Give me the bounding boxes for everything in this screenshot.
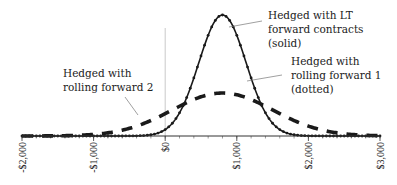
data-point (225, 15, 228, 18)
annotation-rolling-forward-1: Hedged with rolling forward 1 (dotted) (291, 55, 385, 95)
data-point (268, 117, 271, 120)
data-point (257, 96, 260, 99)
data-point (182, 104, 185, 107)
data-point (192, 77, 195, 80)
data-point (167, 125, 170, 128)
data-point (246, 66, 249, 69)
data-point (250, 77, 253, 80)
x-tick-label: -$1,000 (88, 142, 99, 173)
data-point (210, 25, 213, 28)
data-point (235, 34, 238, 37)
data-point (178, 111, 181, 114)
data-point (289, 133, 292, 136)
distribution-chart: -$2,000-$1,000$0$1,000$2,000$3,000 Hedge… (0, 0, 397, 185)
data-point (185, 96, 188, 99)
annotation-lt-forward: Hedged with LT forward contracts (solid) (268, 9, 367, 49)
data-point (286, 132, 289, 135)
data-point (157, 132, 160, 135)
x-tick-label: $3,000 (375, 142, 386, 170)
data-point (153, 133, 156, 136)
data-point (228, 19, 231, 22)
x-tick-label: $1,000 (231, 142, 242, 170)
data-point (239, 44, 242, 47)
data-point (160, 130, 163, 133)
data-point (203, 44, 206, 47)
data-point (271, 122, 274, 125)
data-point (214, 19, 217, 22)
annotation-line: (dotted) (291, 83, 334, 95)
x-tick-label: $2,000 (303, 142, 314, 170)
annotation-line: rolling forward 1 (291, 69, 381, 81)
annotation-line: forward contracts (268, 23, 364, 35)
x-tick-labels: -$2,000-$1,000$0$1,000$2,000$3,000 (17, 142, 386, 173)
data-point (171, 122, 174, 125)
data-point (175, 117, 178, 120)
leader-line-rolling-forward-2 (125, 97, 138, 115)
data-point (253, 87, 256, 90)
annotation-line: Hedged with (63, 67, 132, 79)
data-point (243, 55, 246, 58)
annotation-rolling-forward-2: Hedged with rolling forward 2 (63, 67, 153, 93)
data-point (200, 55, 203, 58)
data-point (218, 15, 221, 18)
data-point (260, 104, 263, 107)
data-point (207, 34, 210, 37)
annotation-line: (solid) (268, 37, 301, 49)
annotation-line: rolling forward 2 (63, 81, 153, 93)
data-point (196, 66, 199, 69)
annotation-line: Hedged with (291, 55, 360, 67)
series-rolling-forward-2-curve (22, 93, 380, 136)
data-point (164, 128, 167, 131)
data-point (189, 87, 192, 90)
x-tick-label: $0 (160, 142, 171, 152)
x-tick-label: -$2,000 (17, 142, 28, 173)
data-point (278, 128, 281, 131)
data-point (264, 111, 267, 114)
data-point (275, 125, 278, 128)
leader-line-lt-forward (229, 21, 262, 27)
data-point (282, 130, 285, 133)
annotation-line: Hedged with LT (268, 9, 353, 21)
data-point (221, 14, 224, 17)
